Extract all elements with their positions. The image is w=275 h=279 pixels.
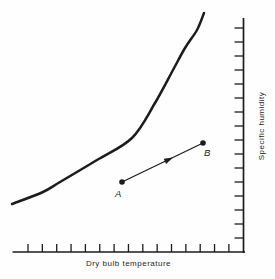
point-b-label: B	[204, 148, 210, 158]
psychrometric-chart-sketch: Dry bulb temperature Specific humidity A…	[0, 0, 275, 279]
x-axis-label: Dry bulb temperature	[13, 259, 244, 268]
y-axis-label: Specific humidity	[256, 66, 268, 186]
plot-svg	[0, 0, 275, 279]
point-a-label: A	[115, 189, 121, 199]
